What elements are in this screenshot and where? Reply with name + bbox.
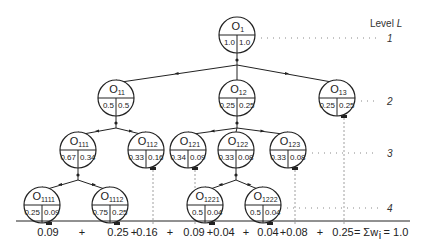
node-weight-left: 0.5 bbox=[192, 208, 204, 217]
arrow-dot-icon bbox=[235, 121, 238, 124]
sum-term: = 1.0 bbox=[384, 226, 409, 238]
node-weight-right: 0.25 bbox=[339, 101, 355, 110]
sum-term: 0.25 bbox=[332, 226, 353, 238]
node-weight-right: 0.25 bbox=[239, 101, 255, 110]
arrow-dot-icon bbox=[234, 173, 237, 176]
sum-term: + bbox=[167, 226, 173, 238]
sum-term: 0.16 bbox=[136, 226, 157, 238]
node-weight-left: 0.5 bbox=[250, 208, 262, 217]
node-o122: O1220.330.08 bbox=[218, 132, 254, 168]
sum-term: i bbox=[379, 229, 381, 241]
node-weight-right: 0.08 bbox=[238, 153, 254, 162]
node-o1222: O12220.50.04 bbox=[245, 187, 281, 223]
node-weight-left: 0.75 bbox=[92, 208, 108, 217]
node-weight-right: 0.08 bbox=[290, 153, 306, 162]
sum-term: 0.25 bbox=[107, 226, 128, 238]
arrowhead-icon bbox=[261, 130, 265, 133]
node-o13: O130.250.25 bbox=[319, 80, 355, 116]
node-weight-left: 0.33 bbox=[128, 153, 144, 162]
node-weight-right: 1.0 bbox=[239, 38, 251, 47]
node-o121: O1210.340.09 bbox=[170, 132, 206, 168]
node-weight-left: 0.25 bbox=[24, 208, 40, 217]
node-weight-right: 0.04 bbox=[265, 208, 281, 217]
sum-term: 0.04 bbox=[213, 226, 234, 238]
arrow-dot-icon bbox=[114, 121, 117, 124]
arrow-dot-icon bbox=[235, 58, 238, 61]
node-weight-left: 1.0 bbox=[224, 38, 236, 47]
sum-term: + bbox=[317, 226, 323, 238]
sum-term: 0.08 bbox=[286, 226, 307, 238]
node-o11: O110.50.5 bbox=[98, 80, 134, 116]
sum-term: + bbox=[207, 226, 213, 238]
node-weight-left: 0.5 bbox=[103, 101, 115, 110]
node-weight-left: 0.34 bbox=[170, 153, 186, 162]
level-label: 4 bbox=[387, 203, 393, 214]
level-label: 3 bbox=[387, 148, 393, 159]
node-weight-right: 0.5 bbox=[118, 101, 130, 110]
node-o1112: O11120.750.25 bbox=[92, 187, 128, 223]
tree-svg: O11.01.0O110.50.5O120.250.25O130.250.25O… bbox=[0, 0, 426, 251]
node-weight-left: 0.33 bbox=[218, 153, 234, 162]
node-weight-right: 0.25 bbox=[112, 208, 128, 217]
node-weight-right: 0.09 bbox=[44, 208, 60, 217]
arrow-dot-icon bbox=[76, 173, 79, 176]
node-weight-right: 0.04 bbox=[207, 208, 223, 217]
node-o1221: O12210.50.04 bbox=[187, 187, 223, 223]
node-o111: O1110.670.34 bbox=[60, 132, 96, 168]
sum-term: = Σw bbox=[354, 226, 378, 238]
tree-nodes: O11.01.0O110.50.5O120.250.25O130.250.25O… bbox=[24, 17, 355, 223]
sum-term: + bbox=[79, 226, 85, 238]
node-weight-left: 0.33 bbox=[270, 153, 286, 162]
node-weight-left: 0.25 bbox=[219, 101, 235, 110]
node-o12: O120.250.25 bbox=[219, 80, 255, 116]
sum-term: 0.09 bbox=[37, 226, 58, 238]
sum-term: + bbox=[243, 226, 249, 238]
sum-equation: 0.09+0.25+0.16+0.09+0.04+0.04+0.08+0.25=… bbox=[37, 226, 408, 241]
node-weight-left: 0.67 bbox=[60, 153, 76, 162]
weighted-tree-diagram: O11.01.0O110.50.5O120.250.25O130.250.25O… bbox=[0, 0, 426, 251]
sum-term: 0.09 bbox=[183, 226, 204, 238]
node-o1: O11.01.0 bbox=[219, 17, 255, 53]
node-weight-right: 0.16 bbox=[148, 153, 164, 162]
sum-term: + bbox=[280, 226, 286, 238]
node-weight-right: 0.09 bbox=[190, 153, 206, 162]
node-o123: O1230.330.08 bbox=[270, 132, 306, 168]
level-label: 1 bbox=[387, 33, 393, 44]
level-labels: 1234 bbox=[386, 33, 393, 214]
node-weight-left: 0.25 bbox=[319, 101, 335, 110]
level-header: Level L bbox=[370, 18, 402, 29]
node-weight-right: 0.34 bbox=[80, 153, 96, 162]
level-label: 2 bbox=[386, 96, 393, 107]
sum-term: 0.04 bbox=[257, 226, 278, 238]
node-o1111: O11110.250.09 bbox=[24, 187, 60, 223]
node-o112: O1120.330.16 bbox=[128, 132, 164, 168]
